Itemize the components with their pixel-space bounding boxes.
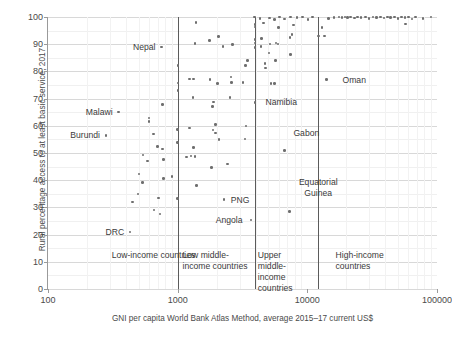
x-tick-mark [307,289,308,293]
data-point [160,46,163,49]
data-point [177,89,180,92]
point-annotation: Nepal [133,42,155,53]
x-tick-label: 100000 [422,295,452,305]
vertical-gridline-minor [240,17,241,289]
y-tick-label: 50 [33,148,43,158]
vertical-gridline-minor [126,17,127,289]
data-point [291,33,294,36]
y-tick-mark [44,99,48,100]
y-tick-mark [44,153,48,154]
data-point [162,158,165,161]
data-point [264,62,267,65]
vertical-gridline-minor [385,17,386,289]
data-point [152,133,155,136]
data-point [327,17,330,20]
horizontal-gridline [48,99,437,100]
y-tick-label: 70 [33,94,43,104]
data-point [262,22,265,25]
data-point [231,43,234,46]
income-group-divider [178,17,179,289]
data-point [268,52,271,55]
horizontal-gridline-minor [48,85,437,86]
data-point [273,82,276,85]
data-point [242,81,245,84]
data-point [217,35,220,38]
data-point [216,82,219,85]
data-point [156,145,159,148]
horizontal-gridline [48,44,437,45]
data-point [400,16,403,19]
data-point [260,45,263,48]
data-point [389,16,392,19]
data-point [194,42,197,45]
data-point [192,78,195,81]
point-annotation: Angola [216,215,243,226]
y-tick-label: 30 [33,202,43,212]
data-point [157,197,160,200]
data-point [353,17,356,20]
data-point [212,101,215,104]
point-annotation: Gabon [293,127,319,138]
data-point [176,141,179,144]
horizontal-gridline [48,126,437,127]
data-point [176,128,179,131]
data-point [283,18,286,21]
x-tick-label: 100 [40,295,55,305]
data-point [171,175,174,178]
y-tick-label: 10 [33,257,43,267]
data-point [141,181,144,184]
data-point [161,103,164,106]
point-annotation: Namibia [265,97,297,108]
vertical-gridline-minor [172,17,173,289]
horizontal-gridline [48,289,437,290]
vertical-gridline-minor [398,17,399,289]
data-point [195,21,198,24]
data-point [253,16,256,19]
data-point [274,59,277,62]
data-point [260,37,263,40]
data-point [414,16,417,19]
point-annotation: DRC [106,227,125,238]
y-tick-mark [44,235,48,236]
y-tick-mark [44,44,48,45]
income-group-divider [255,17,256,289]
data-point [407,16,410,19]
data-point [226,163,229,166]
data-point [244,64,247,67]
horizontal-gridline [48,153,437,154]
data-point [192,146,195,149]
data-point [194,155,197,158]
data-point [176,197,179,200]
y-tick-mark [44,17,48,18]
data-point [277,26,280,29]
horizontal-gridline-minor [48,167,437,168]
y-tick-label: 60 [33,121,43,131]
plot-area: NepalMalawiBurundiDRCPNGAngolaNamibiaGab… [48,17,437,289]
data-point [283,149,286,152]
data-point [341,16,344,19]
data-point [404,16,407,19]
y-tick-label: 20 [33,230,43,240]
y-tick-mark [44,207,48,208]
data-point [246,59,249,62]
data-point [289,36,292,39]
x-tick-label: 1000 [168,295,188,305]
income-group-divider [318,17,319,289]
vertical-gridline-minor [139,17,140,289]
x-axis-title: GNI per capita World Bank Atlas Method, … [48,314,437,323]
vertical-gridline-minor [431,17,432,289]
data-point [105,134,108,137]
data-point [259,17,262,20]
data-point [288,210,291,213]
y-tick-label: 90 [33,39,43,49]
data-point [321,26,324,29]
data-point [307,18,310,21]
x-tick-label: 10000 [295,295,320,305]
vertical-gridline-minor [346,17,347,289]
data-point [273,18,276,21]
data-point [375,16,378,19]
y-tick-mark [44,180,48,181]
data-point [210,166,213,169]
data-point [264,67,267,70]
